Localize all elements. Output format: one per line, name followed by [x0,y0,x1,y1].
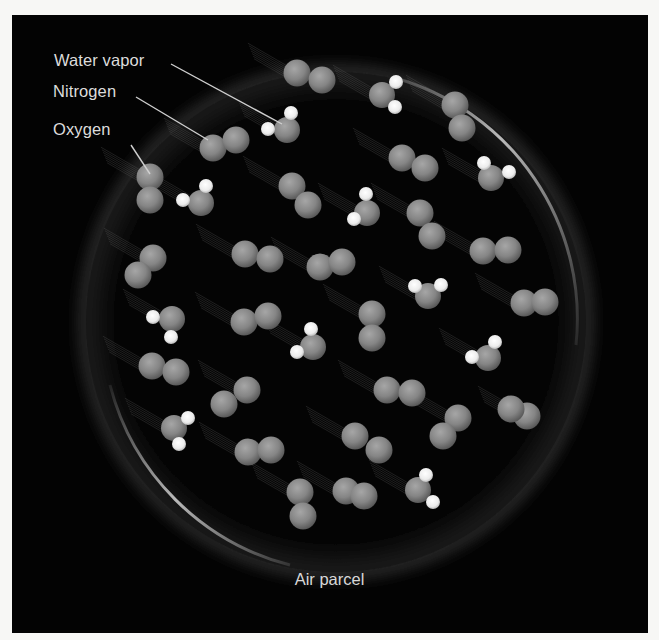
hydrogen-atom [304,322,318,336]
oxygen-atom [159,306,185,332]
hydrogen-atom [465,350,479,364]
hydrogen-atom [290,345,304,359]
atom [223,127,250,154]
atom [211,391,238,418]
hydrogen-atom [176,193,190,207]
atom [329,249,356,276]
hydrogen-atom [408,279,422,293]
hydrogen-atom [419,468,433,482]
atom [284,60,311,87]
atom [399,380,426,407]
atom [366,437,393,464]
atom [258,437,285,464]
atom [235,439,262,466]
atom [442,92,469,119]
hydrogen-atom [426,495,440,509]
atom [359,325,386,352]
label-oxygen: Oxygen [53,121,110,138]
hydrogen-atom [146,310,160,324]
hydrogen-atom [477,156,491,170]
atom [200,135,227,162]
oxygen-atom [300,334,326,360]
oxygen-atom [274,117,300,143]
hydrogen-atom [172,437,186,451]
oxygen-atom [188,190,214,216]
hydrogen-atom [347,212,361,226]
label-water-vapor: Water vapor [54,52,144,69]
atom [290,503,317,530]
atom [430,423,457,450]
atom [374,377,401,404]
atom [125,262,152,289]
atom [287,479,314,506]
atom [342,423,369,450]
atom [234,377,261,404]
hydrogen-atom [261,122,275,136]
atom [231,309,258,336]
atom [389,145,416,172]
hydrogen-atom [181,411,195,425]
atom [495,237,522,264]
atom [532,289,559,316]
hydrogen-atom [488,335,502,349]
atom [232,241,259,268]
atom [257,246,284,273]
hydrogen-atom [199,179,213,193]
caption-air-parcel: Air parcel [0,570,659,589]
atom [139,353,166,380]
atom [163,359,190,386]
hydrogen-atom [164,330,178,344]
atom [407,200,434,227]
atom [449,115,476,142]
atom [351,483,378,510]
atom [419,223,446,250]
hydrogen-atom [502,165,516,179]
atom [412,155,439,182]
hydrogen-atom [434,278,448,292]
label-nitrogen: Nitrogen [53,83,116,100]
atom [359,301,386,328]
atom [295,192,322,219]
hydrogen-atom [359,187,373,201]
atom [255,303,282,330]
hydrogen-atom [388,100,402,114]
hydrogen-atom [284,106,298,120]
atom [498,396,525,423]
atom [137,164,164,191]
atom [309,67,336,94]
hydrogen-atom [389,75,403,89]
atom [137,187,164,214]
atom [470,238,497,265]
